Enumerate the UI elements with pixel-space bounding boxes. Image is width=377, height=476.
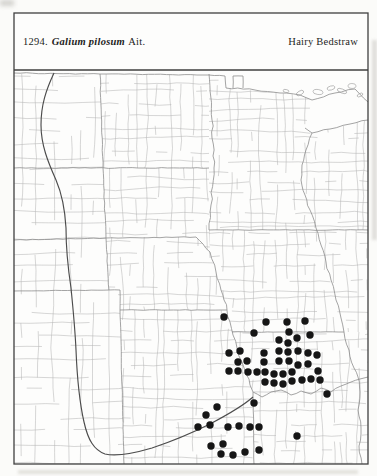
occurrence-dot — [284, 339, 291, 346]
occurrence-dot — [250, 399, 257, 406]
occurrence-dot — [304, 360, 311, 367]
occurrence-dot — [220, 313, 227, 320]
occurrence-dot — [275, 347, 282, 354]
occurrence-dot — [270, 370, 277, 377]
occurrence-dot — [213, 403, 220, 410]
occurrence-dot — [241, 448, 248, 455]
occurrence-dot — [275, 336, 282, 343]
occurrence-dot — [235, 422, 242, 429]
occurrence-dot — [285, 357, 292, 364]
occurrence-dot — [255, 423, 262, 430]
occurrence-dot — [298, 376, 305, 383]
occurrence-dot — [279, 380, 286, 387]
occurrence-dot — [224, 423, 231, 430]
occurrence-dot — [313, 351, 320, 358]
occurrence-dot — [306, 331, 313, 338]
occurrence-dot — [243, 357, 250, 364]
species-name: Galium pilosum — [51, 36, 126, 47]
occurrence-dot — [261, 378, 268, 385]
occurrence-dot — [294, 347, 301, 354]
occurrence-dot — [225, 349, 232, 356]
occurrence-dot — [261, 368, 268, 375]
occurrence-dot — [246, 423, 253, 430]
occurrence-dot — [262, 318, 269, 325]
occurrence-dot — [284, 348, 291, 355]
occurrence-dot — [202, 411, 209, 418]
occurrence-dot — [244, 368, 251, 375]
occurrence-dot — [307, 375, 314, 382]
occurrence-dot — [304, 349, 311, 356]
occurrence-dot — [293, 334, 300, 341]
occurrence-dot — [288, 368, 295, 375]
header: 1294. Galium pilosum Ait. Hairy Bedstraw — [14, 13, 368, 70]
occurrence-dot — [225, 367, 232, 374]
occurrence-dot — [206, 421, 213, 428]
occurrence-dot — [260, 358, 267, 365]
occurrence-dot — [314, 367, 321, 374]
occurrence-dot — [207, 442, 214, 449]
occurrence-dot — [279, 370, 286, 377]
scan-artifact-bottom — [18, 470, 358, 474]
occurrence-dot — [253, 368, 260, 375]
occurrence-dot — [270, 379, 277, 386]
occurrence-dot — [234, 358, 241, 365]
occurrence-dot — [323, 390, 330, 397]
occurrence-dot — [293, 432, 300, 439]
occurrence-dot — [316, 376, 323, 383]
occurrence-dot — [285, 328, 292, 335]
taxon-number: 1294. — [23, 36, 48, 47]
occurrence-dot — [229, 451, 236, 458]
common-name: Hairy Bedstraw — [288, 36, 358, 47]
occurrence-dot — [288, 377, 295, 384]
occurrence-dot — [275, 357, 282, 364]
taxon-title: 1294. Galium pilosum Ait. — [23, 36, 145, 47]
atlas-page: 1294. Galium pilosum Ait. Hairy Bedstraw — [0, 0, 377, 476]
occurrence-dot — [294, 361, 301, 368]
occurrence-dot — [219, 440, 226, 447]
distribution-map — [0, 0, 377, 476]
occurrence-dot — [255, 446, 262, 453]
occurrence-dot — [194, 423, 201, 430]
scan-artifact-right — [372, 40, 377, 240]
taxon-authority: Ait. — [128, 36, 145, 47]
occurrence-dot — [283, 318, 290, 325]
scan-artifact-corner — [0, 0, 14, 6]
occurrence-dot — [234, 367, 241, 374]
occurrence-dot — [236, 347, 243, 354]
occurrence-dot — [217, 450, 224, 457]
occurrence-dot — [250, 329, 257, 336]
occurrence-dot — [260, 349, 267, 356]
occurrence-dot — [301, 317, 308, 324]
